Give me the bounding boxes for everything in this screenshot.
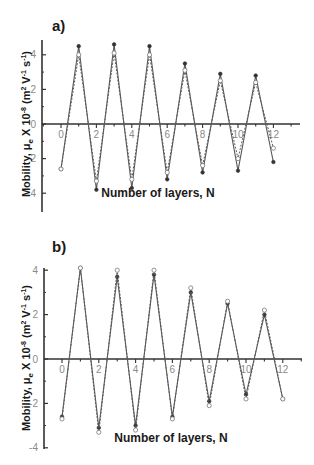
y-tick-label: 4 [32,265,38,276]
x-axis-title: Number of layers, N [114,431,227,445]
chart-panel-b: b)420-2-4024681012Number of layers, NMob… [20,238,302,453]
chart-panel-a: a)42024024681012Number of layers, NMobil… [20,17,300,212]
x-tick-label: 8 [206,364,212,375]
data-point-dashed [189,286,193,290]
figure: a)42024024681012Number of layers, NMobil… [0,0,314,465]
data-point-dashed [207,404,211,408]
y-tick-label: -4 [29,442,38,453]
data-point-dashed [165,170,169,174]
data-point-dashed [236,157,240,161]
data-point-dashed [77,53,81,57]
data-point-solid [236,169,240,173]
data-point-dashed [170,417,174,421]
data-point-solid [112,43,116,47]
data-point-dashed [112,51,116,55]
panel-label: a) [52,17,65,34]
data-point-dashed [281,397,285,401]
data-point-dashed [147,53,151,57]
data-point-dashed [271,146,275,150]
x-tick-label: 4 [129,129,135,140]
x-tick-label: 6 [170,364,176,375]
data-point-dashed [262,308,266,312]
data-point-solid [165,178,169,182]
data-point-dashed [78,266,82,270]
x-axis-title: Number of layers, N [101,186,214,200]
data-point-solid [201,171,205,175]
x-tick-label: 4 [133,364,139,375]
y-tick-label: 2 [32,309,38,320]
data-point-solid [148,44,152,48]
data-point-dashed [94,179,98,183]
panel-label: b) [52,238,66,255]
data-point-dashed [183,68,187,72]
data-point-dashed [218,79,222,83]
data-point-dashed [59,167,63,171]
series-line-dashed [62,268,283,432]
data-point-dashed [201,163,205,167]
data-point-dashed [254,80,258,84]
data-point-dashed [60,417,64,421]
data-point-solid [254,74,258,78]
x-tick-label: 2 [96,364,102,375]
data-point-dashed [152,268,156,272]
data-point-solid [183,62,187,66]
data-point-dashed [244,397,248,401]
x-tick-label: 8 [200,129,206,140]
data-point-solid [77,44,81,48]
x-tick-label: 0 [58,129,64,140]
data-point-dashed [115,268,119,272]
data-point-dashed [130,177,134,181]
series-line-solid [61,44,273,189]
x-tick-label: 6 [164,129,170,140]
data-point-dashed [226,299,230,303]
data-point-dashed [97,430,101,434]
x-tick-label: 2 [94,129,100,140]
x-tick-label: 12 [277,364,289,375]
data-point-solid [272,160,276,164]
data-point-solid [95,188,99,192]
x-tick-label: 0 [59,364,65,375]
data-point-solid [219,72,223,76]
y-tick-label: 0 [32,354,38,365]
